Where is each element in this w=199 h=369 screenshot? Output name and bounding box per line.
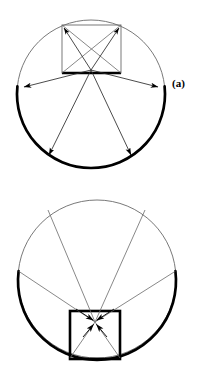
diagram-a-svg bbox=[0, 0, 199, 185]
arrow-b-from-lower-right bbox=[96, 324, 107, 337]
diagram-panel-a: (a) bbox=[0, 0, 199, 185]
panel-label-a: (a) bbox=[172, 78, 185, 89]
bold-arc-b bbox=[18, 271, 176, 360]
guide-b-upper-left bbox=[48, 210, 95, 322]
square-outline-b bbox=[70, 311, 120, 359]
arrow-a-right bbox=[91, 70, 158, 87]
circle-outline-b bbox=[18, 200, 176, 358]
arrow-a-upper-right bbox=[91, 28, 119, 70]
diagram-b-svg bbox=[0, 185, 199, 369]
figure-root: (a) bbox=[0, 0, 199, 369]
guide-b-right bbox=[95, 271, 175, 322]
arrow-a-lower-right bbox=[91, 70, 131, 155]
guide-b-upper-right bbox=[95, 210, 145, 322]
arrow-a-left bbox=[24, 70, 91, 87]
arrow-a-upper-left bbox=[64, 28, 91, 70]
bold-arc-a bbox=[17, 86, 165, 168]
arrow-a-lower-left bbox=[49, 70, 91, 155]
arrow-b-from-lower-left bbox=[83, 324, 94, 337]
diagram-panel-b: (b) bbox=[0, 185, 199, 369]
